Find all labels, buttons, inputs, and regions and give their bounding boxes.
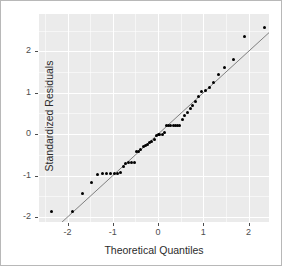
data-point [243, 35, 246, 38]
data-point [189, 107, 192, 110]
data-point [71, 210, 74, 213]
y-tick-mark [35, 134, 38, 135]
data-point [181, 118, 184, 121]
data-point [212, 81, 215, 84]
x-tick-label: 2 [237, 227, 261, 238]
x-tick-label: -1 [101, 227, 125, 238]
qq-plot-figure: -2-1012 -2-1012 Theoretical Quantiles St… [0, 0, 282, 266]
y-tick-mark [35, 217, 38, 218]
data-point [223, 66, 226, 69]
data-point [263, 26, 266, 29]
data-point [183, 114, 186, 117]
y-tick-label: -2 [9, 211, 31, 222]
data-point [194, 100, 197, 103]
x-tick-mark [249, 223, 250, 226]
data-point [122, 165, 125, 168]
x-tick-label: 1 [191, 227, 215, 238]
x-tick-mark [68, 223, 69, 226]
data-point [217, 73, 220, 76]
y-tick-label: 2 [9, 45, 31, 56]
plot-panel [39, 14, 269, 222]
x-tick-label: -2 [56, 227, 80, 238]
x-tick-mark [113, 223, 114, 226]
x-axis-label: Theoretical Quantiles [39, 244, 269, 256]
x-tick-mark [158, 223, 159, 226]
data-point [90, 181, 93, 184]
y-tick-mark [35, 176, 38, 177]
y-tick-mark [35, 51, 38, 52]
y-tick-label: -1 [9, 170, 31, 181]
y-tick-mark [35, 93, 38, 94]
x-tick-mark [203, 223, 204, 226]
data-point [153, 138, 156, 141]
y-tick-label: 1 [9, 87, 31, 98]
data-point [163, 131, 166, 134]
data-point [178, 124, 181, 127]
data-point [232, 58, 235, 61]
x-tick-label: 0 [146, 227, 170, 238]
y-tick-label: 0 [9, 128, 31, 139]
reference-line [39, 14, 269, 222]
data-point [133, 161, 136, 164]
y-axis-label: Standardized Residuals [43, 12, 55, 220]
